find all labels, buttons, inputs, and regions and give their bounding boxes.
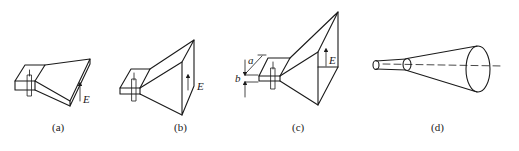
- e-field-label: E: [196, 80, 204, 92]
- dimension-a-label: a: [248, 54, 254, 66]
- horn-antenna-diagram: E (a) E (b) E a b (c): [0, 0, 519, 151]
- dimension-b-label: b: [235, 72, 241, 84]
- panel-c-pyramidal-horn: E a b (c): [235, 12, 338, 134]
- caption-b: (b): [174, 121, 187, 134]
- caption-c: (c): [292, 121, 305, 134]
- panel-d-conical-horn: (d): [373, 46, 503, 134]
- caption-d: (d): [431, 121, 444, 134]
- caption-a: (a): [52, 121, 65, 134]
- e-field-label: E: [82, 93, 90, 105]
- axis-line: [383, 64, 503, 66]
- panel-b-h-plane-horn: E (b): [120, 40, 204, 134]
- e-field-label: E: [328, 54, 336, 66]
- panel-a-e-plane-horn: E (a): [15, 59, 90, 134]
